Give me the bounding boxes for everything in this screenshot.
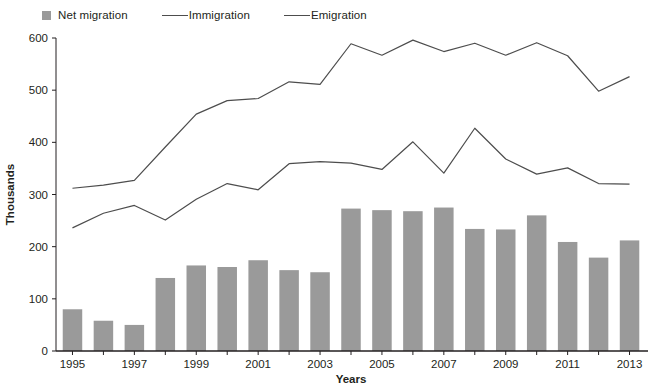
y-tick-labels: 0100200300400500600 xyxy=(29,32,48,357)
bar-2008 xyxy=(465,229,485,351)
x-tick-label-2005: 2005 xyxy=(369,358,395,370)
bar-2002 xyxy=(279,270,299,351)
x-axis-title: Years xyxy=(336,373,367,385)
bar-1997 xyxy=(125,325,144,351)
bar-1998 xyxy=(156,278,176,351)
x-tick-label-2003: 2003 xyxy=(307,358,333,370)
bar-2000 xyxy=(217,267,237,351)
bars-group xyxy=(63,208,640,351)
bar-2010 xyxy=(527,215,547,351)
x-tick-label-2011: 2011 xyxy=(555,358,580,370)
bar-2006 xyxy=(403,211,423,351)
bar-2009 xyxy=(496,229,516,351)
lines-group xyxy=(72,40,629,228)
chart-svg: 0100200300400500600 19951997199920012003… xyxy=(0,0,651,386)
bar-2004 xyxy=(341,209,361,351)
y-axis-title: Thousands xyxy=(4,164,16,225)
y-tick-label: 200 xyxy=(29,241,48,253)
y-tick-label: 600 xyxy=(29,32,48,44)
bar-1999 xyxy=(187,265,207,351)
y-tick-label: 0 xyxy=(42,345,48,357)
line-immigration xyxy=(72,40,629,188)
migration-chart: Net migration Immigration Emigration 010… xyxy=(0,0,651,386)
y-tick-label: 500 xyxy=(29,84,48,96)
y-tick-label: 300 xyxy=(29,189,48,201)
bar-1996 xyxy=(94,321,114,351)
bar-2013 xyxy=(620,240,640,351)
bar-2012 xyxy=(589,258,609,351)
y-tick-label: 400 xyxy=(29,136,48,148)
x-tick-label-2007: 2007 xyxy=(431,358,457,370)
x-tick-label-2013: 2013 xyxy=(617,358,643,370)
x-tick-label-1997: 1997 xyxy=(122,358,148,370)
bar-2003 xyxy=(310,272,330,351)
y-tick-label: 100 xyxy=(29,293,48,305)
bar-2007 xyxy=(434,208,454,351)
bar-2005 xyxy=(372,210,392,351)
x-tick-label-1995: 1995 xyxy=(60,358,86,370)
x-tick-label-1999: 1999 xyxy=(183,358,209,370)
bar-2001 xyxy=(248,260,268,351)
x-tick-label-2009: 2009 xyxy=(493,358,519,370)
x-tick-labels: 1995199719992001200320052007200920112013 xyxy=(60,358,643,370)
bar-2011 xyxy=(558,242,578,351)
x-tick-label-2001: 2001 xyxy=(245,358,271,370)
bar-1995 xyxy=(63,309,82,351)
plot-area: 0100200300400500600 19951997199920012003… xyxy=(0,0,651,386)
